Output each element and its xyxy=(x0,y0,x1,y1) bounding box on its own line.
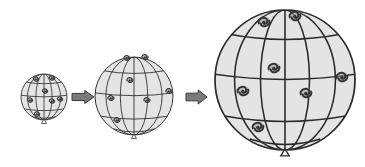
balloons xyxy=(19,9,357,156)
arrow-1-icon xyxy=(72,91,94,104)
balloon-large xyxy=(213,9,357,156)
balloon-small xyxy=(19,74,69,124)
arrow-2-icon xyxy=(186,90,207,104)
expanding-balloon-diagram xyxy=(0,0,365,167)
balloon-medium xyxy=(93,53,175,138)
